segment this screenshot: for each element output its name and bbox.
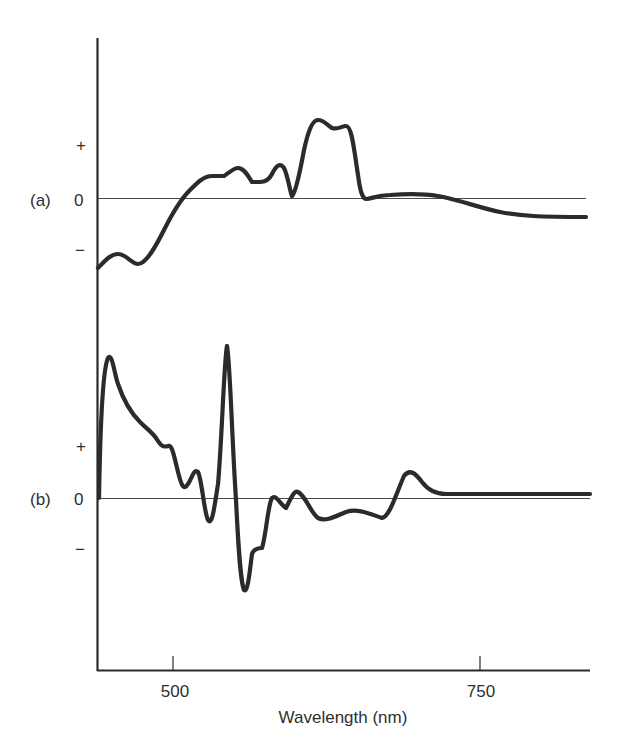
- x-tick-label-750: 750: [467, 683, 495, 700]
- panel-label-b: (b): [30, 491, 51, 508]
- plus-marker-b: +: [76, 438, 86, 455]
- curve-b: [99, 346, 590, 590]
- spectra-plot: [0, 0, 626, 731]
- plus-marker-a: +: [76, 137, 86, 154]
- panel-label-a: (a): [30, 192, 51, 209]
- minus-marker-b: −: [75, 541, 85, 558]
- minus-marker-a: −: [75, 242, 85, 259]
- curve-a: [98, 120, 586, 268]
- x-axis-title: Wavelength (nm): [279, 708, 408, 728]
- zero-label-a: 0: [74, 192, 83, 209]
- x-tick-label-500: 500: [161, 683, 189, 700]
- zero-label-b: 0: [74, 491, 83, 508]
